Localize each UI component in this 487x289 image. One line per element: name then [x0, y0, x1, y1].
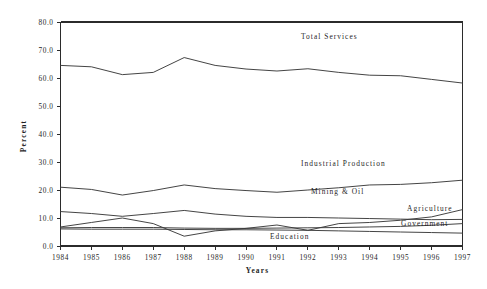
series-label-education: Education: [270, 232, 309, 241]
y-tick-label: 20.0: [39, 186, 54, 195]
series-line-education: [61, 229, 463, 233]
x-axis-title: Years: [246, 266, 270, 275]
series-label-mining-oil: Mining & Oil: [311, 187, 364, 196]
x-tick-label: 1996: [423, 253, 440, 262]
y-tick-label: 60.0: [39, 74, 54, 83]
series-label-total-services: Total Services: [301, 32, 358, 41]
y-tick-label: 0.0: [43, 242, 54, 251]
x-tick-label: 1986: [114, 253, 131, 262]
x-tick-label: 1990: [238, 253, 255, 262]
x-tick-label: 1994: [361, 253, 378, 262]
y-tick-label: 10.0: [39, 214, 54, 223]
x-tick-label: 1984: [52, 253, 69, 262]
y-axis-ticks: 0.010.020.030.040.050.060.070.080.0: [39, 18, 61, 251]
y-tick-label: 70.0: [39, 46, 54, 55]
x-tick-label: 1992: [299, 253, 316, 262]
series-label-industrial-production: Industrial Production: [301, 159, 386, 168]
line-chart-figure: 0.010.020.030.040.050.060.070.080.019841…: [0, 0, 487, 289]
x-axis-ticks: 1984198519861987198819891990199119921993…: [52, 246, 471, 262]
y-tick-label: 40.0: [39, 130, 54, 139]
y-tick-label: 50.0: [39, 102, 54, 111]
series-line-total-services: [61, 58, 463, 83]
y-tick-label: 30.0: [39, 158, 54, 167]
series-line-industrial-production: [61, 180, 463, 195]
x-tick-label: 1989: [207, 253, 224, 262]
x-tick-label: 1987: [145, 253, 162, 262]
series-label-agriculture: Agriculture: [407, 204, 453, 213]
x-tick-label: 1991: [268, 253, 285, 262]
x-tick-label: 1993: [330, 253, 347, 262]
x-tick-label: 1997: [454, 253, 471, 262]
x-tick-label: 1985: [83, 253, 100, 262]
x-tick-label: 1988: [176, 253, 193, 262]
series-annotations: Total ServicesIndustrial ProductionMinin…: [270, 32, 453, 241]
x-tick-label: 1995: [392, 253, 409, 262]
series-group: [61, 58, 463, 237]
y-axis-title: Percent: [19, 120, 28, 152]
chart-canvas: 0.010.020.030.040.050.060.070.080.019841…: [0, 0, 487, 289]
y-tick-label: 80.0: [39, 18, 54, 27]
series-label-government: Government: [401, 219, 448, 228]
